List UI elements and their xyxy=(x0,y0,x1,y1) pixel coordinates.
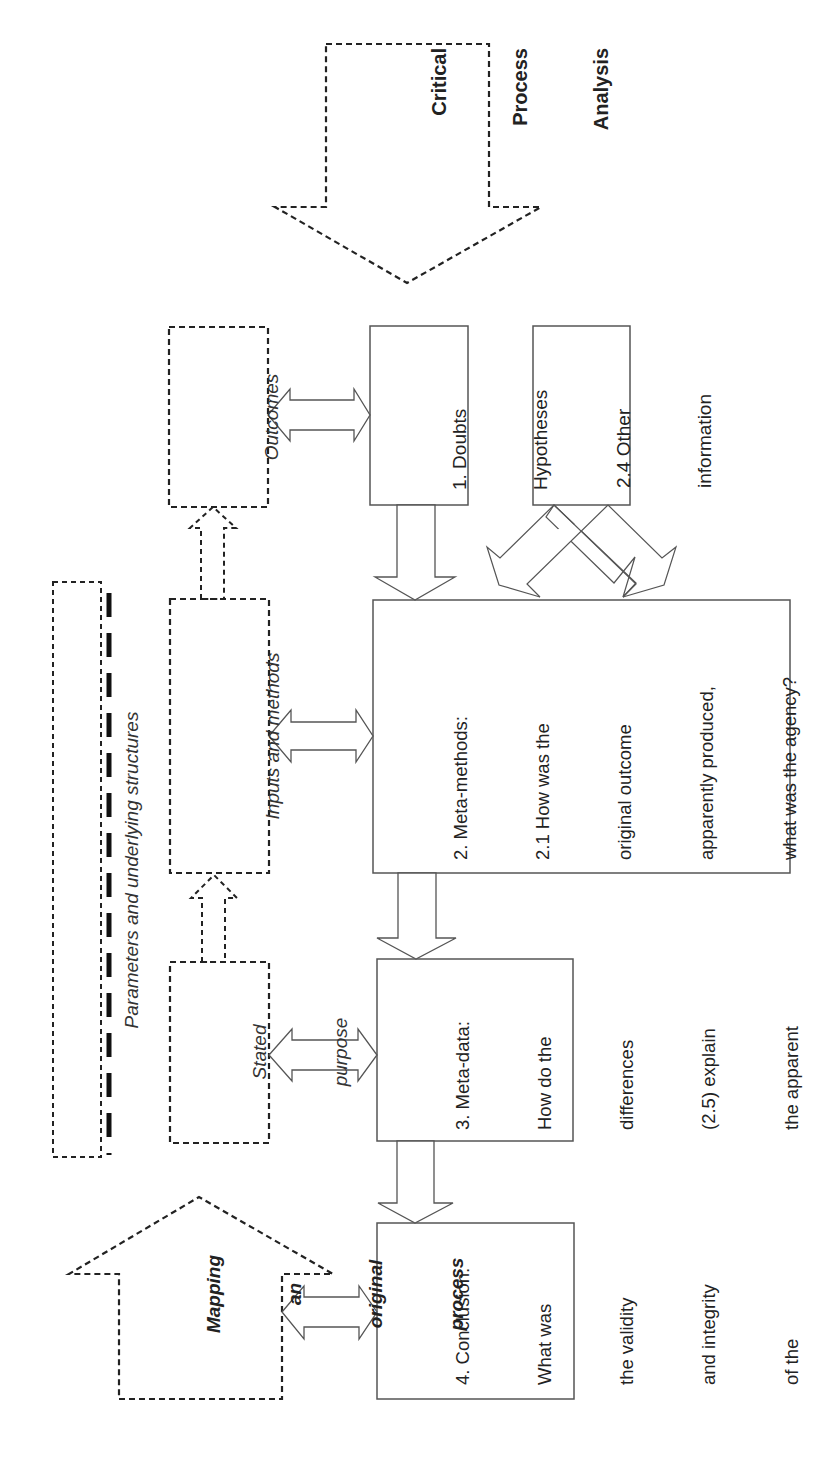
meta-methods-line-4: apparently produced, xyxy=(693,600,720,860)
doubts-line-1: 1. Doubts xyxy=(446,330,473,490)
meta-data-label: 3. Meta-data: How do the differences (2.… xyxy=(394,960,823,1130)
meta-methods-line-2: 2.1 How was the xyxy=(529,600,556,860)
conclusion-line-1: 4. Conclusion: xyxy=(449,1225,476,1385)
critical-line-3: Analysis xyxy=(588,48,615,208)
meta-methods-line-5: what was the agency? xyxy=(776,600,803,860)
meta-data-line-4: (2.5) explain xyxy=(695,960,722,1130)
stated-purpose-label: Stated purpose xyxy=(192,964,381,1140)
conclusion-line-2: What was xyxy=(531,1225,558,1385)
meta-methods-line-3: original outcome xyxy=(611,600,638,860)
critical-process-label: Critical Process Analysis xyxy=(372,48,642,208)
meta-data-line-5: the apparent xyxy=(778,960,805,1130)
conclusion-line-3: the validity xyxy=(613,1225,640,1385)
conclusion-label: 4. Conclusion: What was the validity and… xyxy=(394,1225,823,1385)
outcomes-label: Outcomes xyxy=(204,331,312,503)
dashed-up-arrow-inputs-to-outcomes xyxy=(190,507,236,599)
parameters-text: Parameters and underlying structures xyxy=(118,610,145,1130)
outcomes-text: Outcomes xyxy=(258,331,285,503)
stated-line-1: Stated xyxy=(246,964,273,1140)
mapping-line-2: an xyxy=(281,1224,308,1364)
mapping-line-1: Mapping xyxy=(200,1224,227,1364)
critical-line-2: Process xyxy=(507,48,534,208)
parameters-label: Parameters and underlying structures xyxy=(64,610,172,1130)
meta-data-line-3: differences xyxy=(613,960,640,1130)
other-info-label: 2.4 Other information xyxy=(556,328,745,488)
meta-methods-line-1: 2. Meta-methods: xyxy=(447,600,474,860)
inputs-text: Inputs and methods xyxy=(259,606,286,866)
doubts-label: 1. Doubts Hypotheses xyxy=(392,330,581,490)
down-arrow-meta-data-to-conclusion xyxy=(378,1141,453,1223)
other-line-1: 2.4 Other xyxy=(610,328,637,488)
meta-data-line-1: 3. Meta-data: xyxy=(449,960,476,1130)
inputs-label: Inputs and methods xyxy=(205,606,313,866)
other-line-2: information xyxy=(691,328,718,488)
stated-line-2: purpose xyxy=(327,964,354,1140)
down-arrow-meta-methods-to-meta-data xyxy=(377,873,456,959)
meta-data-line-2: How do the xyxy=(531,960,558,1130)
meta-methods-label: 2. Meta-methods: 2.1 How was the origina… xyxy=(392,600,823,860)
dashed-up-arrow-stated-to-inputs xyxy=(191,875,237,962)
critical-line-1: Critical xyxy=(426,48,453,208)
conclusion-line-5: of the xyxy=(778,1225,805,1385)
mapping-line-3: original xyxy=(362,1224,389,1364)
doubts-line-2: Hypotheses xyxy=(527,330,554,490)
conclusion-line-4: and integrity xyxy=(695,1225,722,1385)
down-arrow-doubts-to-meta-methods xyxy=(375,505,455,600)
